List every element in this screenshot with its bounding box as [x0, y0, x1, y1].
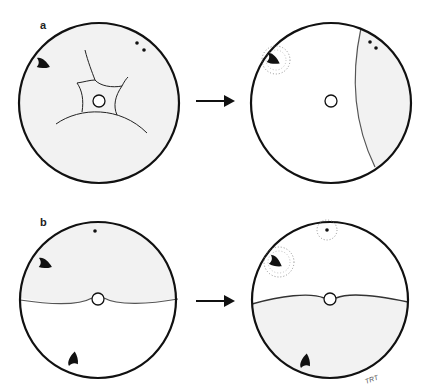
center-circle — [93, 95, 105, 107]
dot — [374, 46, 378, 50]
dot — [325, 228, 329, 232]
diagram-canvas: a b — [0, 0, 423, 391]
panel-a-before: a — [19, 19, 179, 183]
dot — [135, 41, 139, 45]
center-circle — [324, 293, 336, 305]
dot — [93, 229, 97, 233]
arrow-icon — [196, 295, 235, 307]
panel-b-after: TRT — [240, 220, 423, 391]
panel-a-after — [251, 0, 423, 183]
dot — [142, 48, 146, 52]
center-circle — [92, 293, 104, 305]
signature: TRT — [364, 374, 380, 385]
panel-a-label: a — [40, 19, 47, 31]
panel-b-before: b — [0, 190, 200, 378]
shaded-upper-half — [0, 190, 200, 303]
panel-b-label: b — [40, 216, 47, 228]
dot — [368, 40, 372, 44]
arrow-icon — [196, 95, 235, 107]
center-circle — [325, 95, 337, 107]
